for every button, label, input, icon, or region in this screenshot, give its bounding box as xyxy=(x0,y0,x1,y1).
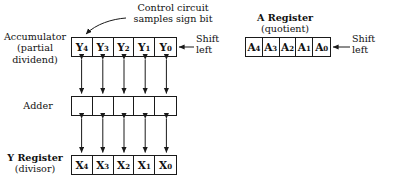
accumulator-label: Accumulator (partial dividend) xyxy=(2,31,68,65)
y-register-label-line1: Y Register xyxy=(2,152,68,163)
control-circuit-annotation: Control circuit samples sign bit xyxy=(118,2,228,25)
adder-cell-2[interactable] xyxy=(114,97,135,115)
a-register: A4 A3 A2 A1 A0 xyxy=(245,37,331,57)
a-register-cell-3[interactable]: A1 xyxy=(296,38,313,56)
y-register-cell-1-name: X xyxy=(96,159,104,171)
a-register-label: A Register (quotient) xyxy=(233,12,337,35)
y-register-cell-4-name: X xyxy=(159,159,167,171)
accumulator-cell-1-name: Y xyxy=(97,41,105,53)
a-register-label-line1: A Register xyxy=(233,12,337,23)
accumulator-cell-3-name: Y xyxy=(138,41,146,53)
y-register-cell-0-name: X xyxy=(75,159,83,171)
accumulator-cell-4-name: Y xyxy=(159,41,167,53)
a-register-cell-3-name: A xyxy=(298,41,306,53)
shift-left-accumulator-line2: left xyxy=(196,44,240,55)
adder-cell-0[interactable] xyxy=(72,97,93,115)
y-register-cell-2[interactable]: X2 xyxy=(114,156,135,174)
accumulator-cell-4[interactable]: Y0 xyxy=(155,38,176,56)
a-register-label-line2: (quotient) xyxy=(233,23,337,34)
shift-left-a-register-line1: Shift xyxy=(352,33,394,44)
y-register-cell-3-name: X xyxy=(138,159,146,171)
adder-cell-1[interactable] xyxy=(93,97,114,115)
accumulator-cell-3[interactable]: Y1 xyxy=(134,38,155,56)
accumulator-cell-2[interactable]: Y2 xyxy=(114,38,135,56)
accumulator-cell-0[interactable]: Y4 xyxy=(72,38,93,56)
a-register-cell-2[interactable]: A2 xyxy=(280,38,297,56)
shift-left-a-register-label: Shift left xyxy=(352,33,394,56)
control-circuit-line2: samples sign bit xyxy=(118,13,228,24)
a-register-cell-0-name: A xyxy=(247,41,255,53)
accumulator-label-line2: (partial xyxy=(2,42,68,53)
adder-block xyxy=(71,96,177,116)
a-register-cell-1[interactable]: A3 xyxy=(263,38,280,56)
adder-cell-4[interactable] xyxy=(155,97,176,115)
accumulator-cell-1[interactable]: Y3 xyxy=(93,38,114,56)
a-register-cell-2-name: A xyxy=(281,41,289,53)
y-register: X4 X3 X2 X1 X0 xyxy=(71,155,177,175)
y-register-label: Y Register (divisor) xyxy=(2,152,68,175)
shift-left-accumulator-line1: Shift xyxy=(196,33,240,44)
a-register-cell-4-name: A xyxy=(315,41,323,53)
y-register-cell-0[interactable]: X4 xyxy=(72,156,93,174)
a-register-cell-0[interactable]: A4 xyxy=(246,38,263,56)
accumulator-label-line1: Accumulator xyxy=(2,31,68,42)
y-register-cell-3[interactable]: X1 xyxy=(134,156,155,174)
accumulator-cell-0-name: Y xyxy=(76,41,84,53)
y-register-label-line2: (divisor) xyxy=(2,163,68,174)
y-register-cell-4[interactable]: X0 xyxy=(155,156,176,174)
adder-label: Adder xyxy=(10,100,66,111)
y-register-cell-1[interactable]: X3 xyxy=(93,156,114,174)
accumulator-cell-2-name: Y xyxy=(117,41,125,53)
a-register-cell-4[interactable]: A0 xyxy=(313,38,330,56)
accumulator-label-line3: dividend) xyxy=(2,54,68,65)
shift-left-a-register-line2: left xyxy=(352,44,394,55)
shift-left-accumulator-label: Shift left xyxy=(196,33,240,56)
division-datapath-diagram: Control circuit samples sign bit Accumul… xyxy=(0,0,394,186)
y-register-cell-2-name: X xyxy=(117,159,125,171)
adder-y-register-bus xyxy=(82,119,167,153)
accumulator-adder-bus xyxy=(82,60,167,94)
control-circuit-line1: Control circuit xyxy=(118,2,228,13)
a-register-cell-1-name: A xyxy=(264,41,272,53)
adder-cell-3[interactable] xyxy=(134,97,155,115)
accumulator-register: Y4 Y3 Y2 Y1 Y0 xyxy=(71,37,177,57)
adder-label-line1: Adder xyxy=(10,100,66,111)
